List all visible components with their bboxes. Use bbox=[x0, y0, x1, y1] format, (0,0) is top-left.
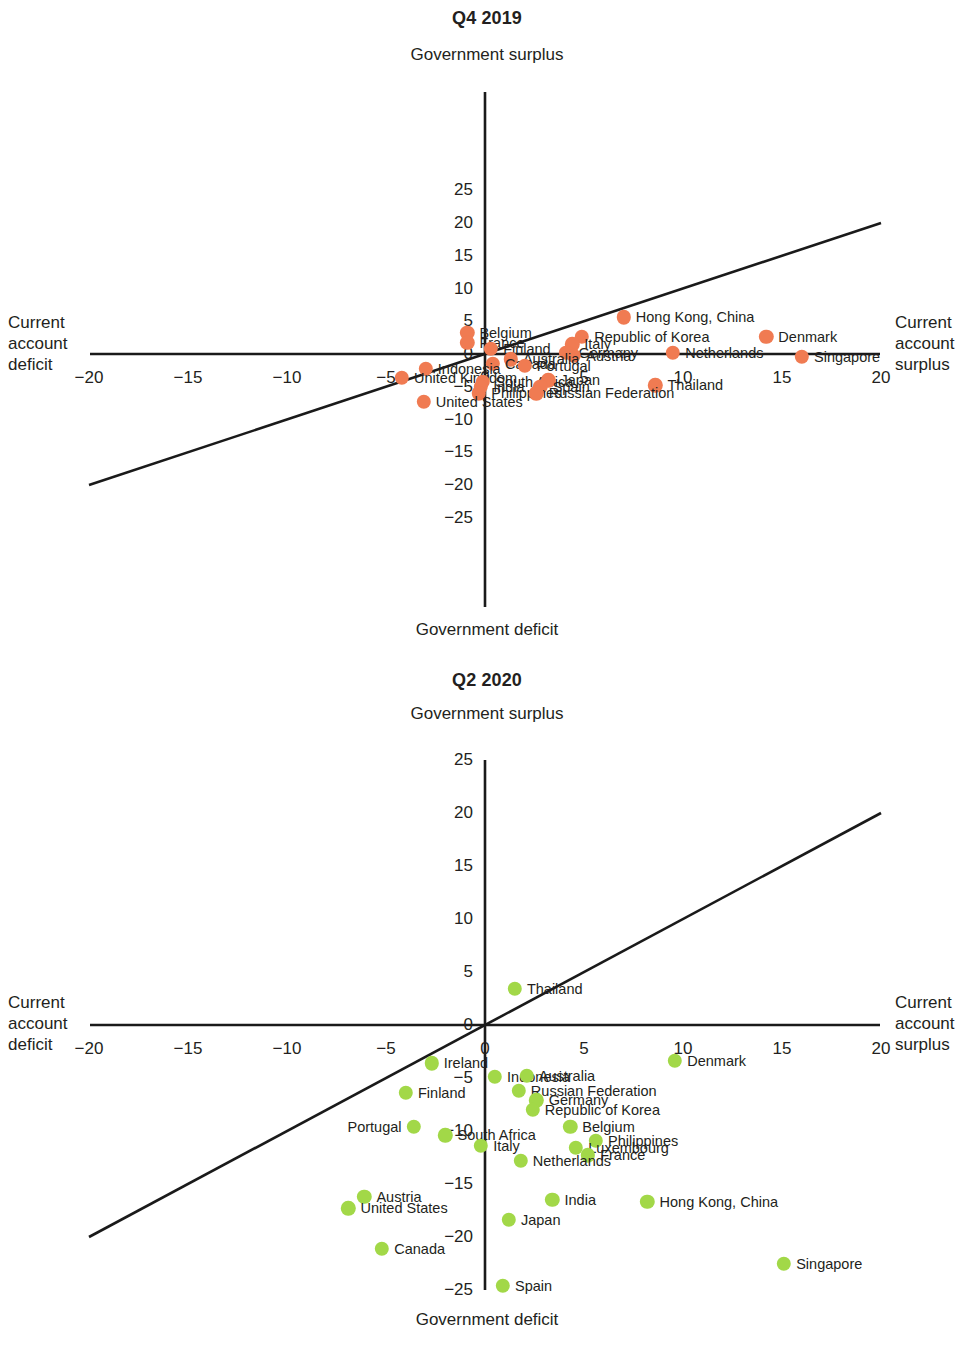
data-point-label: United States bbox=[361, 1201, 448, 1216]
data-point-label: Canada bbox=[394, 1241, 445, 1256]
left-caption-line-1: Current bbox=[8, 312, 68, 333]
x-tick-15: 15 bbox=[773, 368, 792, 388]
y-tick-10: 10 bbox=[454, 279, 473, 299]
x-tick--10: −10 bbox=[273, 368, 302, 388]
y-tick-20: 20 bbox=[454, 803, 473, 823]
x-tick--10: −10 bbox=[273, 1039, 302, 1059]
y-tick-25: 25 bbox=[454, 180, 473, 200]
left-caption-line-1: Current bbox=[8, 992, 68, 1013]
data-point-label: India bbox=[565, 1192, 596, 1207]
y-tick-15: 15 bbox=[454, 246, 473, 266]
data-point-label: Netherlands bbox=[533, 1153, 611, 1168]
y-tick--15: −15 bbox=[444, 1174, 473, 1194]
chart-panel-q4-2019: Q4 2019 Government surplus −20−15−10−505… bbox=[0, 0, 974, 660]
left-caption-line-2: account bbox=[8, 333, 68, 354]
y-tick-10: 10 bbox=[454, 909, 473, 929]
y-axis-caption-bottom-upper: Government deficit bbox=[0, 620, 974, 640]
scatter-plot-q2-2020: −20−15−10−5051015202520151050−5−10−15−20… bbox=[0, 660, 974, 1345]
y-tick-25: 25 bbox=[454, 750, 473, 770]
data-point-label: Italy bbox=[493, 1138, 520, 1153]
x-tick-20: 20 bbox=[872, 368, 891, 388]
data-point-label: Singapore bbox=[796, 1256, 862, 1271]
x-axis-left-caption-bottom: Current account deficit bbox=[8, 992, 68, 1055]
x-tick--20: −20 bbox=[75, 1039, 104, 1059]
x-tick-20: 20 bbox=[872, 1039, 891, 1059]
data-point-label: Spain bbox=[515, 1278, 552, 1293]
data-point-label: Republic of Korea bbox=[594, 329, 709, 344]
data-point-label: Russian Federation bbox=[549, 386, 675, 401]
x-tick--5: −5 bbox=[376, 1039, 395, 1059]
y-tick--15: −15 bbox=[444, 442, 473, 462]
scatter-plot-q4-2019: −20−15−10−5051015202520151050−5−10−15−20… bbox=[0, 0, 974, 660]
x-tick--20: −20 bbox=[75, 368, 104, 388]
data-point-label: Thailand bbox=[667, 378, 723, 393]
right-caption-line-2: account bbox=[895, 1013, 955, 1034]
data-point-label: Australia bbox=[539, 1068, 595, 1083]
data-point-label: Hong Kong, China bbox=[660, 1195, 779, 1210]
data-point-label: Thailand bbox=[527, 981, 583, 996]
plot-axes-bottom bbox=[0, 660, 974, 1345]
x-axis-right-caption-top: Current account surplus bbox=[895, 312, 955, 375]
right-caption-line-1: Current bbox=[895, 992, 955, 1013]
y-tick--10: −10 bbox=[444, 410, 473, 430]
data-point-label: Ireland bbox=[444, 1056, 488, 1071]
x-tick--15: −15 bbox=[174, 368, 203, 388]
left-caption-line-3: deficit bbox=[8, 354, 68, 375]
x-axis-left-caption-top: Current account deficit bbox=[8, 312, 68, 375]
data-point-label: Denmark bbox=[687, 1054, 746, 1069]
x-tick-15: 15 bbox=[773, 1039, 792, 1059]
figure-root: Q4 2019 Government surplus −20−15−10−505… bbox=[0, 0, 974, 1345]
right-caption-line-2: account bbox=[895, 333, 955, 354]
y-tick--25: −25 bbox=[444, 508, 473, 528]
y-tick--20: −20 bbox=[444, 1227, 473, 1247]
y-tick--25: −25 bbox=[444, 1280, 473, 1300]
data-point-label: Portugal bbox=[348, 1119, 402, 1134]
right-caption-line-3: surplus bbox=[895, 1034, 955, 1055]
y-tick--20: −20 bbox=[444, 475, 473, 495]
x-axis-right-caption-bottom: Current account surplus bbox=[895, 992, 955, 1055]
left-caption-line-3: deficit bbox=[8, 1034, 68, 1055]
data-point-label: Austria bbox=[586, 348, 631, 363]
data-point-label: Republic of Korea bbox=[545, 1102, 660, 1117]
data-point-label: United States bbox=[436, 394, 523, 409]
y-axis-caption-bottom-lower: Government deficit bbox=[0, 1310, 974, 1330]
right-caption-line-1: Current bbox=[895, 312, 955, 333]
x-tick-5: 5 bbox=[579, 1039, 588, 1059]
chart-panel-q2-2020: Q2 2020 Government surplus −20−15−10−505… bbox=[0, 660, 974, 1345]
y-tick-0: 0 bbox=[464, 1015, 473, 1035]
data-point-label: Netherlands bbox=[685, 345, 763, 360]
data-point-label: Denmark bbox=[778, 329, 837, 344]
y-tick-5: 5 bbox=[464, 962, 473, 982]
x-tick--5: −5 bbox=[376, 368, 395, 388]
data-point-label: Hong Kong, China bbox=[636, 310, 755, 325]
x-tick--15: −15 bbox=[174, 1039, 203, 1059]
left-caption-line-2: account bbox=[8, 1013, 68, 1034]
right-caption-line-3: surplus bbox=[895, 354, 955, 375]
y-tick-15: 15 bbox=[454, 856, 473, 876]
data-point-label: Singapore bbox=[814, 349, 880, 364]
data-point-label: Finland bbox=[418, 1085, 466, 1100]
data-point-label: Japan bbox=[521, 1213, 561, 1228]
y-tick-20: 20 bbox=[454, 213, 473, 233]
